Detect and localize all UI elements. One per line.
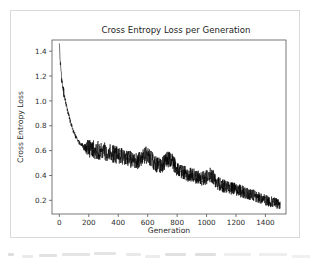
cropped-text-fragment xyxy=(292,255,310,258)
y-tick-label: 0.2 xyxy=(35,196,46,205)
x-tick-label: 1400 xyxy=(256,218,275,227)
x-axis-label: Generation xyxy=(148,226,191,235)
y-tick-label: 0.6 xyxy=(35,146,47,155)
chart-title: Cross Entropy Loss per Generation xyxy=(102,25,251,35)
cropped-text-fragment xyxy=(62,253,90,256)
chart-title-group: Cross Entropy Loss per Generation xyxy=(102,25,251,35)
plot-frame xyxy=(52,40,286,214)
x-tick-label: 400 xyxy=(111,218,125,227)
cropped-text-fragment xyxy=(126,253,141,256)
cropped-text-fragment xyxy=(94,252,116,255)
y-tick-label: 1.0 xyxy=(35,97,47,106)
x-tick-label: 1000 xyxy=(197,218,216,227)
y-tick-label: 1.2 xyxy=(35,72,46,81)
figure-card: Cross Entropy Loss per Generation 0.20.4… xyxy=(10,10,300,238)
series-group xyxy=(59,43,280,209)
cropped-text-fragment xyxy=(145,255,160,258)
cropped-footer-text xyxy=(0,246,310,261)
cropped-text-fragment xyxy=(165,253,186,256)
cropped-text-fragment xyxy=(8,253,14,256)
y-tick-label: 0.8 xyxy=(35,121,47,130)
cropped-text-fragment xyxy=(195,253,216,256)
cropped-text-fragment xyxy=(39,254,57,257)
y-tick-label: 1.4 xyxy=(35,47,47,56)
cropped-text-fragment xyxy=(259,253,287,256)
x-tick-label: 0 xyxy=(57,218,62,227)
x-tick-label: 200 xyxy=(82,218,96,227)
cropped-text-fragment xyxy=(22,255,33,258)
x-tick-label: 1200 xyxy=(227,218,246,227)
loss-series-line xyxy=(59,43,280,209)
cross-entropy-loss-chart: Cross Entropy Loss per Generation 0.20.4… xyxy=(11,11,299,237)
y-axis-ticks: 0.20.40.60.81.01.21.4 xyxy=(35,47,52,205)
cropped-text-fragment xyxy=(224,253,251,256)
y-axis-label: Cross Entropy Loss xyxy=(16,91,25,163)
y-tick-label: 0.4 xyxy=(35,171,47,180)
